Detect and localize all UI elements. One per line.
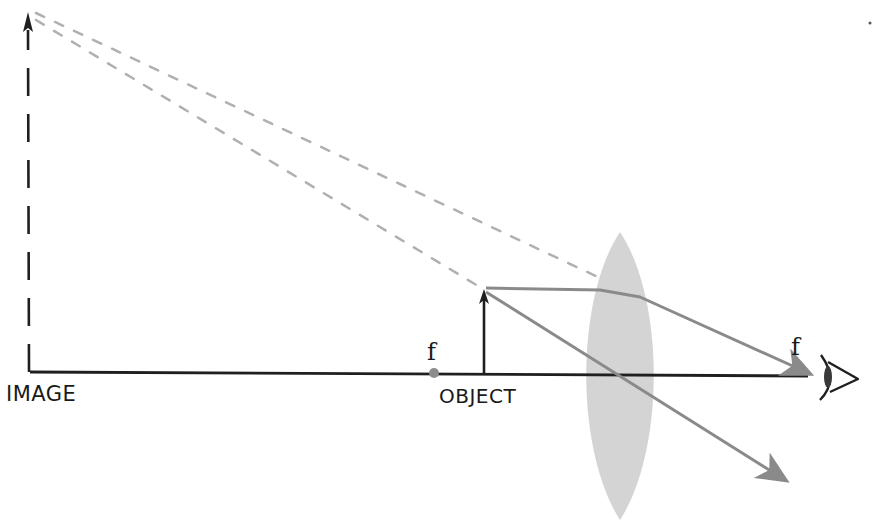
image-arrow-head [23,12,33,32]
stray-mark [869,22,872,25]
optical-axis [30,372,808,376]
focal-label-left: f [427,340,436,364]
virtual-ray-lower [36,20,478,286]
eye-icon [820,355,858,400]
focal-point-left [429,368,439,378]
object-label: OBJECT [439,386,516,406]
image-label: IMAGE [6,384,76,405]
virtual-ray-upper [36,13,600,278]
image-arrow-shaft [28,30,29,372]
focal-label-right: f [791,335,800,359]
lens-ray-diagram [0,0,873,527]
